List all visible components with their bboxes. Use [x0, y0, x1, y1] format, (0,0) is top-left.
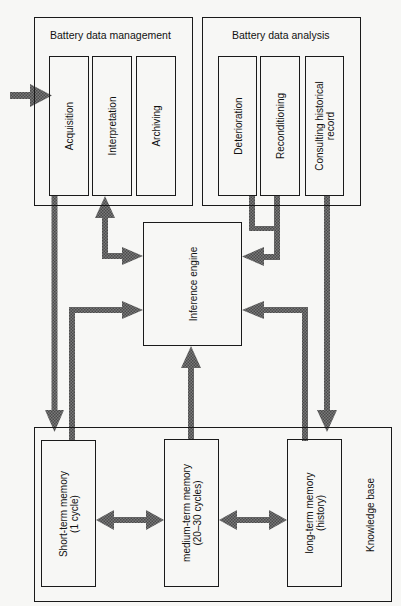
consulting-historical-record-box: Consulting historical record [305, 56, 344, 196]
knowledge-base-label: Knowledge base [365, 478, 376, 552]
short-term-memory-box: Short-term memory (1 cycle) [41, 440, 96, 587]
medium-term-memory-box: medium-term memory (20–30 cycles) [164, 439, 219, 587]
short-term-memory-label: Short-term memory (1 cycle) [58, 470, 80, 556]
analysis-title: Battery data analysis [232, 29, 329, 41]
reconditioning-box: Reconditioning [260, 56, 300, 196]
acquisition-box: Acquisition [49, 56, 89, 196]
acquisition-to-short-term-arrow [45, 195, 64, 432]
medium-term-memory-label: medium-term memory (20–30 cycles) [181, 464, 203, 562]
long-term-memory-box: long-term memory (history) [287, 439, 342, 587]
long-term-to-engine-arrow [242, 301, 308, 441]
archiving-label: Archiving [151, 105, 162, 146]
inference-engine-box: Inference engine [143, 222, 242, 346]
acquisition-label: Acquisition [64, 102, 75, 150]
reconditioning-label: Reconditioning [275, 93, 286, 159]
inference-engine-label: Inference engine [187, 247, 198, 322]
long-term-memory-label: long-term memory (history) [304, 472, 326, 553]
medium-term-to-engine-arrow [181, 346, 201, 440]
deterioration-box: Deterioration [218, 56, 257, 196]
archiving-box: Archiving [136, 56, 176, 196]
consulting-to-long-term-arrow [317, 195, 337, 432]
deterioration-label: Deterioration [232, 97, 243, 154]
consulting-historical-record-label: Consulting historical record [314, 81, 336, 171]
interpretation-box: Interpretation [92, 56, 132, 196]
management-title: Battery data management [50, 29, 171, 41]
interpretation-engine-arrow [95, 196, 143, 265]
interpretation-label: Interpretation [107, 97, 118, 156]
short-term-to-engine-arrow [69, 301, 143, 441]
